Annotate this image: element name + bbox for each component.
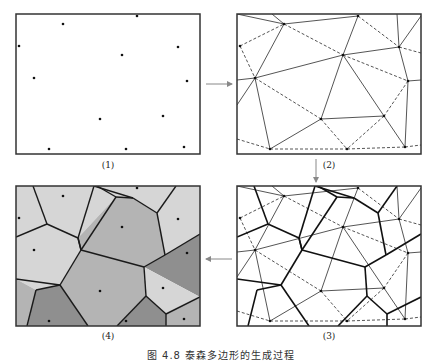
sample-point xyxy=(342,226,345,229)
delaunay-edge xyxy=(399,188,421,219)
delaunay-edge-dashed xyxy=(255,250,321,291)
sample-point xyxy=(48,320,51,323)
sample-point xyxy=(33,249,36,252)
sample-point xyxy=(125,320,128,323)
voronoi-edge xyxy=(257,285,281,290)
delaunay-edge xyxy=(237,78,255,80)
sample-point xyxy=(162,115,165,118)
sample-point xyxy=(346,148,349,151)
sample-point xyxy=(398,46,401,49)
sample-point xyxy=(346,320,349,323)
delaunay-edge xyxy=(399,16,421,47)
delaunay-edge xyxy=(343,47,399,55)
sample-point xyxy=(18,45,21,48)
delaunay-edge-dashed xyxy=(399,47,421,53)
panel-3-voronoi-overlay xyxy=(237,186,421,326)
delaunay-edge-dashed xyxy=(384,81,408,116)
delaunay-edge xyxy=(343,55,384,116)
sample-point xyxy=(357,187,360,190)
delaunay-edge xyxy=(405,253,408,319)
sample-point xyxy=(33,77,36,80)
delaunay-edge xyxy=(405,81,408,147)
delaunay-edge xyxy=(399,219,408,253)
delaunay-edge xyxy=(397,186,399,219)
voronoi-edge xyxy=(248,290,257,326)
voronoi-edge xyxy=(367,296,387,314)
panel-3-label: (3) xyxy=(323,331,336,341)
sample-point xyxy=(162,287,165,290)
delaunay-edge-dashed xyxy=(405,145,421,147)
sample-point xyxy=(99,290,102,293)
delaunay-edge xyxy=(343,188,358,227)
sample-point xyxy=(407,252,410,255)
process-arrows xyxy=(206,84,316,259)
sample-point xyxy=(177,46,180,49)
voronoi-edge xyxy=(254,186,268,224)
sample-point xyxy=(269,320,272,323)
delaunay-edge xyxy=(237,250,255,252)
voronoi-edge xyxy=(302,197,337,250)
delaunay-edge xyxy=(321,227,343,291)
voronoi-edge xyxy=(268,224,299,238)
sample-point xyxy=(18,217,21,220)
delaunay-edge xyxy=(284,16,358,24)
delaunay-edge xyxy=(237,186,284,196)
delaunay-edge-dashed xyxy=(347,147,405,149)
delaunay-edge xyxy=(321,288,384,291)
voronoi-edge xyxy=(365,255,386,267)
delaunay-edge xyxy=(321,55,343,119)
panel-2-delaunay-triangulation xyxy=(237,14,421,154)
delaunay-edge xyxy=(408,252,421,253)
delaunay-edge xyxy=(343,227,384,288)
panel-1-points xyxy=(16,14,200,154)
delaunay-edge xyxy=(397,14,399,47)
voronoi-edge xyxy=(378,213,386,255)
sample-point xyxy=(404,146,407,149)
sample-point xyxy=(269,148,272,151)
sample-point xyxy=(283,195,286,198)
delaunay-edge xyxy=(255,250,270,321)
sample-point xyxy=(342,54,345,57)
voronoi-edge xyxy=(338,296,367,326)
sample-point xyxy=(125,148,128,151)
delaunay-edge-dashed xyxy=(240,24,284,46)
delaunay-edge-dashed xyxy=(237,139,270,149)
delaunay-edge xyxy=(255,55,343,78)
sample-point xyxy=(99,118,102,121)
sample-point xyxy=(239,217,242,220)
delaunay-edge-dashed xyxy=(347,288,384,321)
sample-point xyxy=(186,80,189,83)
sample-point xyxy=(407,80,410,83)
sample-point xyxy=(183,318,186,321)
sample-point xyxy=(62,23,65,26)
delaunay-edge-dashed xyxy=(255,78,321,119)
sample-point xyxy=(186,252,189,255)
delaunay-edge xyxy=(399,47,408,81)
panel-2-label: (2) xyxy=(323,160,336,170)
delaunay-edge xyxy=(270,119,321,149)
delaunay-edge xyxy=(237,250,255,277)
voronoi-edge xyxy=(281,250,302,285)
delaunay-edge xyxy=(321,116,384,119)
voronoi-edge xyxy=(365,267,367,296)
sample-point xyxy=(136,187,139,190)
delaunay-edge xyxy=(255,78,270,149)
sample-point xyxy=(177,218,180,221)
sample-point xyxy=(254,77,257,80)
delaunay-edge-dashed xyxy=(384,253,408,288)
sample-point xyxy=(320,290,323,293)
sample-point xyxy=(283,23,286,26)
delaunay-edge-dashed xyxy=(358,16,399,47)
sample-point xyxy=(383,287,386,290)
panel-4-label: (4) xyxy=(102,331,115,341)
delaunay-edge xyxy=(343,16,358,55)
sample-point xyxy=(183,146,186,149)
sample-point xyxy=(121,226,124,229)
delaunay-edge-dashed xyxy=(399,219,421,225)
sample-point xyxy=(320,118,323,121)
panel-frame xyxy=(16,14,200,154)
sample-point xyxy=(121,54,124,57)
delaunay-edge-dashed xyxy=(343,55,408,81)
delaunay-edge-dashed xyxy=(343,227,408,253)
